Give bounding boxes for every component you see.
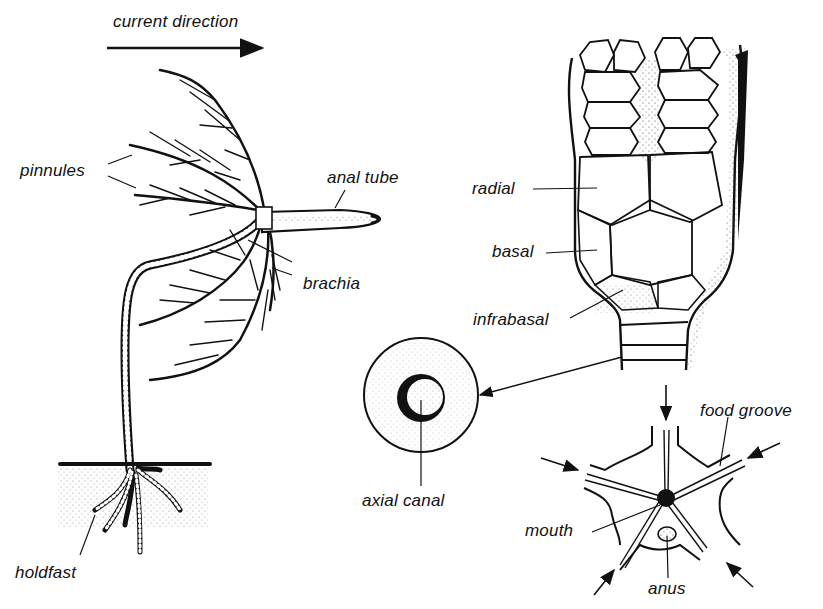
- oral-surface-drawing: [584, 426, 745, 570]
- label-anal-tube: anal tube: [327, 169, 399, 186]
- crinoid-whole-animal: [58, 70, 380, 552]
- label-mouth: mouth: [525, 522, 573, 539]
- section-arrow: [480, 357, 622, 395]
- diagram-artwork: [0, 0, 823, 609]
- label-infrabasal: infrabasal: [473, 311, 549, 328]
- label-basal: basal: [492, 243, 534, 260]
- label-current-direction: current direction: [113, 13, 238, 30]
- stem-cross-section: [364, 338, 478, 486]
- label-brachia: brachia: [303, 275, 360, 292]
- label-anus: anus: [648, 580, 686, 597]
- calyx-drawing: [569, 38, 748, 370]
- label-pinnules: pinnules: [20, 162, 85, 179]
- label-food-groove: food groove: [700, 402, 792, 419]
- label-radial: radial: [472, 180, 515, 197]
- label-axial-canal: axial canal: [362, 492, 445, 509]
- crinoid-diagram: current direction pinnules anal tube bra…: [0, 0, 823, 609]
- label-holdfast: holdfast: [15, 564, 76, 581]
